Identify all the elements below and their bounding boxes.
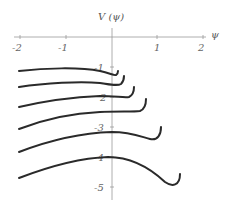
x-tick-label: -2 (12, 42, 22, 53)
curve-2 (19, 76, 124, 87)
y-axis-title: V (ψ) (98, 11, 124, 22)
x-tick-label: 2 (197, 42, 204, 53)
y-tick-label: 2 (99, 92, 106, 103)
x-tick-label: 1 (154, 42, 160, 53)
y-tick-label: -3 (94, 122, 104, 133)
y-tick-label: -5 (94, 182, 104, 193)
x-tick-label: -1 (58, 42, 68, 53)
chart: V (ψ) ψ -2 -1 1 2 -1 2 -3 -4 -5 (0, 0, 226, 210)
curve-3 (19, 87, 134, 107)
curve-5 (19, 127, 161, 152)
x-axis-title: ψ (211, 29, 219, 40)
